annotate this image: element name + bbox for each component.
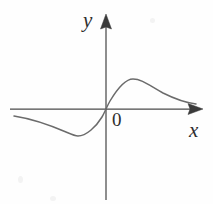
origin-label: 0 xyxy=(112,110,122,129)
x-axis-label: x xyxy=(189,120,198,141)
function-curve xyxy=(14,79,196,136)
coordinate-plot xyxy=(0,0,213,204)
x-axis-arrow-icon xyxy=(188,104,203,115)
y-axis-arrow-icon xyxy=(101,14,112,29)
y-axis-label: y xyxy=(83,10,92,31)
figure-canvas: y x 0 xyxy=(0,0,213,204)
